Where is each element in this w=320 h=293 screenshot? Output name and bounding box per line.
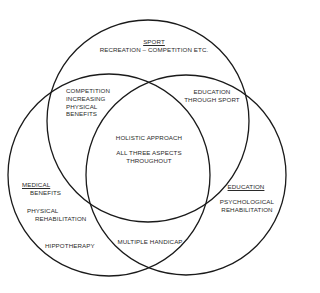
education-title-label: EDUCATION bbox=[222, 183, 270, 191]
psych-rehab-label: PSYCHOLOGICAL REHABILITATION bbox=[216, 198, 278, 214]
sport-education-label: EDUCATION THROUGH SPORT bbox=[182, 88, 242, 104]
center-label: HOLISTIC APPROACH ALL THREE ASPECTS THRO… bbox=[109, 134, 189, 164]
sport-label: SPORT RECREATION – COMPETITION ETC. bbox=[94, 38, 214, 54]
multiple-handicap-label: MULTIPLE HANDICAP bbox=[115, 238, 185, 246]
medical-title: MEDICAL bbox=[22, 181, 61, 189]
center-line2: ALL THREE ASPECTS bbox=[109, 149, 189, 157]
sport-title: SPORT bbox=[94, 38, 214, 46]
physical-rehab-label: PHYSICAL REHABILITATION bbox=[27, 207, 86, 223]
center-line1: HOLISTIC APPROACH bbox=[109, 134, 189, 142]
center-line3: THROUGHOUT bbox=[109, 157, 189, 165]
sport-subtitle: RECREATION – COMPETITION ETC. bbox=[94, 46, 214, 54]
sport-medical-label: COMPETITION INCREASING PHYSICAL BENEFITS bbox=[66, 87, 110, 118]
medical-title-label: MEDICAL BENEFITS bbox=[22, 181, 61, 197]
medical-title2: BENEFITS bbox=[22, 189, 61, 197]
education-title: EDUCATION bbox=[222, 183, 270, 191]
hippotherapy-label: HIPPOTHERAPY bbox=[45, 242, 95, 250]
